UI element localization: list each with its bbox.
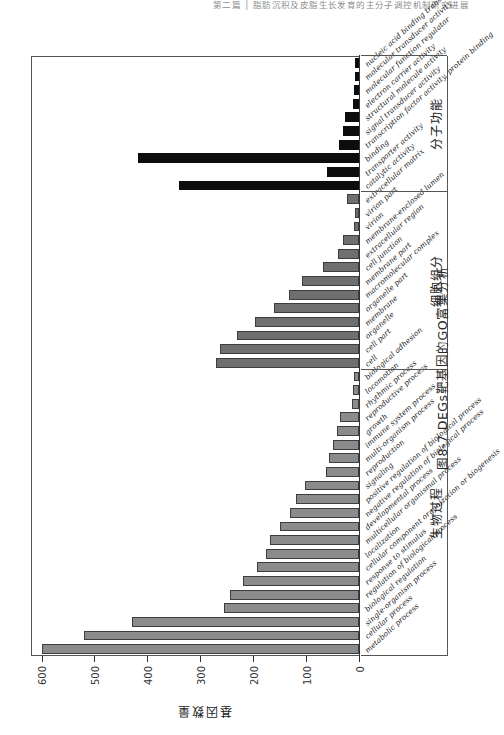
bar xyxy=(230,589,359,599)
bar xyxy=(131,617,358,627)
bar xyxy=(354,85,359,95)
bar xyxy=(270,535,359,545)
bar xyxy=(354,71,358,81)
bar xyxy=(223,603,358,613)
bar xyxy=(216,357,359,367)
y-tick-label: 600 xyxy=(36,666,47,685)
bar xyxy=(354,371,359,381)
bar xyxy=(354,221,359,231)
bar xyxy=(237,330,359,340)
bar xyxy=(343,126,359,136)
bar xyxy=(274,303,359,313)
y-tick: 400 xyxy=(147,656,148,662)
y-axis-title: 基因数量 xyxy=(143,703,263,720)
y-tick: 0 xyxy=(359,656,360,662)
y-tick: 300 xyxy=(200,656,201,662)
y-tick: 100 xyxy=(306,656,307,662)
page-running-head: 第二篇 │ 脂肪沉积及皮脂生长发育的主分子调控机制研究进展 xyxy=(0,0,475,12)
bar xyxy=(41,644,358,654)
bar xyxy=(179,180,359,190)
y-tick: 500 xyxy=(94,656,95,662)
bar xyxy=(352,98,358,108)
bar xyxy=(326,467,359,477)
bar xyxy=(323,262,359,272)
go-enrichment-figure: 0100200300400500600 基因数量 metabolic proce… xyxy=(23,18,453,718)
bar xyxy=(257,562,359,572)
bar xyxy=(355,57,359,67)
bar xyxy=(345,112,359,122)
bar xyxy=(220,344,359,354)
bar xyxy=(337,248,358,258)
bar xyxy=(279,521,358,531)
bar xyxy=(347,194,359,204)
y-tick-label: 0 xyxy=(354,666,365,672)
y-tick-label: 200 xyxy=(248,666,259,685)
bar xyxy=(336,426,358,436)
bar xyxy=(343,235,359,245)
y-tick-label: 400 xyxy=(142,666,153,685)
bar xyxy=(339,412,358,422)
bar xyxy=(355,207,359,217)
figure-caption: 图8-7 DEGs靶基因的GO富集分析 xyxy=(432,18,451,718)
y-tick: 200 xyxy=(253,656,254,662)
y-tick: 600 xyxy=(41,656,42,662)
bar xyxy=(327,167,359,177)
bar xyxy=(84,630,359,640)
bar xyxy=(352,385,358,395)
bar xyxy=(329,453,359,463)
y-tick-label: 300 xyxy=(195,666,206,685)
bar xyxy=(137,153,358,163)
bar xyxy=(255,317,359,327)
bar xyxy=(302,276,359,286)
bar xyxy=(332,439,358,449)
y-tick-label: 500 xyxy=(89,666,100,685)
bar-series xyxy=(31,56,359,656)
bar xyxy=(351,398,358,408)
bar xyxy=(289,507,358,517)
bar xyxy=(289,289,359,299)
bar xyxy=(265,548,358,558)
y-tick-label: 100 xyxy=(301,666,312,685)
bar xyxy=(304,480,358,490)
bar xyxy=(242,576,358,586)
bar xyxy=(338,139,358,149)
bar xyxy=(296,494,359,504)
